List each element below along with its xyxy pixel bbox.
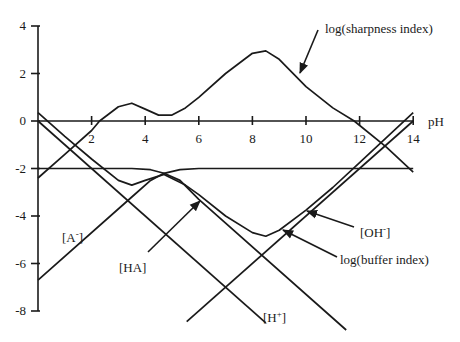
- y-tick-label: -2: [15, 161, 26, 176]
- x-axis-label: pH: [428, 114, 444, 129]
- titration-chart: 420-2-4-6-8 2468101214 log(sharpness ind…: [0, 0, 460, 342]
- sharpness-label: log(sharpness index): [325, 21, 433, 36]
- x-tick-label: 8: [249, 131, 256, 146]
- y-tick-label: 4: [20, 18, 27, 33]
- ha-label: [HA]: [119, 260, 146, 275]
- y-tick-label: -8: [15, 303, 26, 318]
- y-tick-label: 2: [20, 66, 27, 81]
- x-tick-label: 4: [142, 131, 149, 146]
- series-log-sharpness-index: [38, 51, 413, 178]
- series-ha: [38, 169, 346, 331]
- x-tick-label: 10: [300, 131, 313, 146]
- series-oh: [187, 121, 414, 322]
- series-h: [38, 121, 266, 323]
- series-group: [38, 51, 413, 330]
- y-axis: 420-2-4-6-8: [15, 18, 40, 318]
- buffer-arrow: [283, 230, 337, 257]
- x-tick-label: 14: [407, 131, 421, 146]
- y-tick-label: -4: [15, 208, 26, 223]
- oh-label: [OH-]: [360, 224, 390, 240]
- y-tick-label: 0: [20, 113, 27, 128]
- sharpness-arrow: [300, 30, 318, 73]
- x-axis: 2468101214: [38, 116, 420, 146]
- oh-arrow: [307, 211, 354, 227]
- y-tick-label: -6: [15, 256, 26, 271]
- buffer-label: log(buffer index): [340, 252, 429, 267]
- a-minus-label: [A-]: [62, 229, 83, 245]
- x-tick-label: 12: [353, 131, 366, 146]
- h-plus-label: [H+]: [263, 309, 286, 325]
- x-tick-label: 6: [196, 131, 203, 146]
